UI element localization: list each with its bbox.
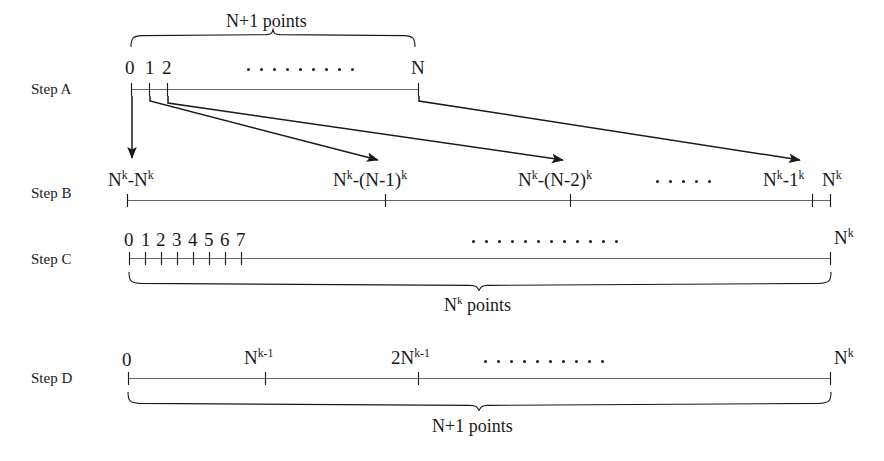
ellipsis-dot xyxy=(524,240,527,243)
ellipsis-dot xyxy=(498,240,501,243)
ellipsis-dot xyxy=(669,180,672,183)
ellipsis-dot xyxy=(601,360,604,363)
ellipsis-dot xyxy=(338,68,341,71)
step-b-ellipsis xyxy=(656,180,711,183)
step-b-axis xyxy=(127,194,831,207)
ellipsis-dot xyxy=(537,240,540,243)
step-a-axis xyxy=(131,83,419,96)
ellipsis-dot xyxy=(247,68,250,71)
ellipsis-dot xyxy=(549,360,552,363)
step-d-tick-label-1: Nk-1 xyxy=(244,348,273,367)
ellipsis-dot xyxy=(563,240,566,243)
ellipsis-dot xyxy=(511,240,514,243)
step-d-label: Step D xyxy=(31,371,72,386)
step-c-tick-label-4: 4 xyxy=(188,230,198,249)
ellipsis-dot xyxy=(589,240,592,243)
ellipsis-dot xyxy=(615,240,618,243)
step-a-tick-label-N: N xyxy=(411,58,425,77)
step-d-tick-label-0: 0 xyxy=(122,350,132,369)
ellipsis-dot xyxy=(523,360,526,363)
ellipsis-dot xyxy=(286,68,289,71)
step-b-tick-label-3: Nk-1k xyxy=(763,170,804,189)
step-a-tick-label-0: 0 xyxy=(125,58,135,77)
ellipsis-dot xyxy=(695,180,698,183)
ellipsis-dot xyxy=(562,360,565,363)
step-c-tick-label-2: 2 xyxy=(156,230,166,249)
step-b-tick-label-4: Nk xyxy=(822,170,842,189)
ellipsis-dot xyxy=(485,240,488,243)
ellipsis-dot xyxy=(576,240,579,243)
step-c-brace-label: Nk points xyxy=(444,296,511,314)
ellipsis-dot xyxy=(325,68,328,71)
ellipsis-dot xyxy=(260,68,263,71)
ellipsis-dot xyxy=(497,360,500,363)
ellipsis-dot xyxy=(682,180,685,183)
step-a-tick-label-1: 1 xyxy=(145,58,155,77)
step-b-tick-label-0: Nk-Nk xyxy=(108,170,154,189)
step-a-ellipsis xyxy=(247,68,354,71)
arrow-from-N xyxy=(419,96,800,160)
step-c-tick-label-0: 0 xyxy=(124,230,134,249)
ellipsis-dot xyxy=(510,360,513,363)
step-c-tick-label-1: 1 xyxy=(141,230,151,249)
step-d-ellipsis xyxy=(484,360,604,363)
ellipsis-dot xyxy=(588,360,591,363)
step-c-tick-label-6: 6 xyxy=(220,230,230,249)
ellipsis-dot xyxy=(708,180,711,183)
step-d-brace-label: N+1 points xyxy=(432,417,513,435)
step-c-end-label: Nk xyxy=(834,228,854,247)
step-c-label: Step C xyxy=(31,252,71,267)
ellipsis-dot xyxy=(656,180,659,183)
arrow-from-2 xyxy=(168,96,563,160)
step-a-label: Step A xyxy=(31,82,71,97)
step-a-brace-label: N+1 points xyxy=(226,12,307,30)
ellipsis-dot xyxy=(299,68,302,71)
ellipsis-dot xyxy=(273,68,276,71)
step-a-brace xyxy=(131,30,415,48)
step-c-tick-label-7: 7 xyxy=(236,230,246,249)
ellipsis-dot xyxy=(484,360,487,363)
ellipsis-dot xyxy=(602,240,605,243)
ellipsis-dot xyxy=(536,360,539,363)
step-c-axis xyxy=(129,252,831,265)
ellipsis-dot xyxy=(550,240,553,243)
ellipsis-dot xyxy=(472,240,475,243)
step-a-to-b-arrows xyxy=(132,96,800,160)
step-d-brace xyxy=(128,392,831,411)
ellipsis-dot xyxy=(575,360,578,363)
step-d-end-label: Nk xyxy=(834,348,854,367)
step-a-tick-label-2: 2 xyxy=(162,58,172,77)
ellipsis-dot xyxy=(312,68,315,71)
figure-canvas: N+1 points Step A 0 1 2 N Step B Nk-Nk N… xyxy=(0,0,884,461)
step-d-tick-label-2: 2Nk-1 xyxy=(391,348,430,367)
ellipsis-dot xyxy=(351,68,354,71)
step-d-axis xyxy=(128,372,831,385)
step-b-tick-label-2: Nk-(N-2)k xyxy=(518,170,592,189)
step-c-ellipsis xyxy=(472,240,618,243)
step-b-tick-label-1: Nk-(N-1)k xyxy=(333,170,407,189)
step-c-tick-label-5: 5 xyxy=(204,230,214,249)
step-b-label: Step B xyxy=(31,186,71,201)
step-c-tick-label-3: 3 xyxy=(172,230,182,249)
step-c-brace xyxy=(129,272,831,291)
